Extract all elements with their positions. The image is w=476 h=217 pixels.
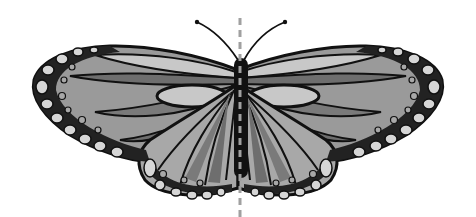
right-antenna — [244, 22, 285, 60]
left-antenna — [197, 22, 238, 60]
right-wings — [238, 46, 443, 199]
butterfly-figure — [0, 0, 476, 217]
left-wings — [33, 46, 238, 199]
